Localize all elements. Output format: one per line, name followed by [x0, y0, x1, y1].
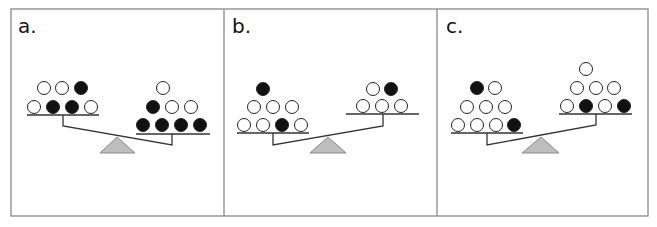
fulcrum-triangle — [100, 137, 135, 153]
panel-c: c. — [446, 14, 632, 153]
balance-scale-b — [237, 83, 419, 154]
white-ball — [185, 101, 198, 114]
white-ball — [452, 119, 465, 132]
black-ball — [147, 101, 160, 114]
white-ball — [238, 119, 251, 132]
black-ball — [276, 119, 289, 132]
balance-scale-c — [451, 63, 632, 154]
white-ball — [461, 101, 474, 114]
white-ball — [395, 100, 408, 113]
right-pan — [559, 63, 632, 115]
panel-label-b: b. — [232, 14, 251, 38]
black-ball — [137, 119, 150, 132]
white-ball — [608, 82, 621, 95]
panel-b: b. — [232, 14, 419, 153]
white-ball — [599, 100, 612, 113]
black-ball — [508, 119, 521, 132]
white-ball — [489, 82, 502, 95]
balance-scales-diagram: a. b. c. — [0, 0, 657, 227]
white-ball — [28, 101, 41, 114]
balance-scale-a — [27, 82, 210, 154]
white-ball — [257, 119, 270, 132]
black-ball — [194, 119, 207, 132]
white-ball — [367, 83, 380, 96]
white-ball — [38, 82, 51, 95]
white-ball — [499, 101, 512, 114]
white-ball — [85, 101, 98, 114]
panel-label-c: c. — [446, 14, 463, 38]
black-ball — [47, 101, 60, 114]
white-ball — [295, 119, 308, 132]
white-ball — [590, 82, 603, 95]
black-ball — [385, 83, 398, 96]
right-pan — [346, 83, 419, 115]
black-ball — [156, 119, 169, 132]
white-ball — [571, 82, 584, 95]
white-ball — [267, 101, 280, 114]
left-pan — [451, 82, 523, 134]
panel-a: a. — [18, 14, 210, 153]
panel-label-a: a. — [18, 14, 37, 38]
black-ball — [618, 100, 631, 113]
white-ball — [357, 100, 370, 113]
black-ball — [580, 100, 593, 113]
black-ball — [175, 119, 188, 132]
fulcrum-triangle — [310, 137, 346, 153]
black-ball — [257, 83, 270, 96]
white-ball — [286, 101, 299, 114]
black-ball — [66, 101, 79, 114]
white-ball — [580, 63, 593, 76]
white-ball — [471, 119, 484, 132]
right-pan — [136, 82, 210, 135]
outer-frame — [11, 9, 648, 216]
white-ball — [480, 101, 493, 114]
white-ball — [166, 101, 179, 114]
left-pan — [237, 83, 309, 134]
white-ball — [248, 101, 261, 114]
white-ball — [376, 100, 389, 113]
left-pan — [27, 82, 99, 116]
fulcrum-triangle — [522, 137, 559, 153]
white-ball — [157, 82, 170, 95]
black-ball — [471, 82, 484, 95]
white-ball — [56, 82, 69, 95]
white-ball — [490, 119, 503, 132]
black-ball — [75, 82, 88, 95]
white-ball — [561, 100, 574, 113]
